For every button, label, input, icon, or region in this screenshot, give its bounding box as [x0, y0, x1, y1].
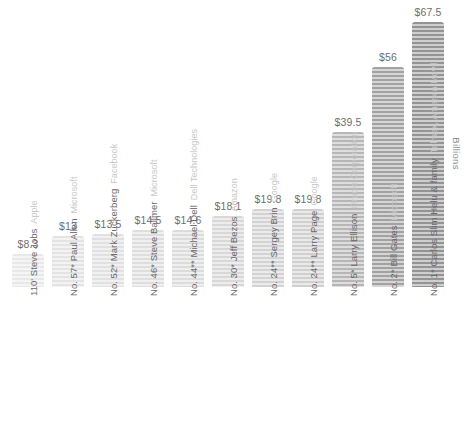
bar-category-label: No. 52* Mark ZuckerbergFacebook: [108, 144, 119, 296]
bar-value-label: $39.5: [335, 116, 362, 128]
bar-group: $14.6No. 44** Michael DellDell Technolog…: [168, 0, 208, 438]
bar-category-label: No. 1* Carlos Slim Helu & familyTelmex, …: [428, 63, 439, 296]
category-name: No. 1* Carlos Slim Helu & family: [428, 158, 439, 296]
category-name: No. 30* Jeff Bezos: [228, 217, 239, 296]
bar-category-label: 110' Steve JobsApple: [28, 200, 39, 296]
category-name: No. 52* Mark Zuckerberg: [108, 189, 119, 296]
bar-group: $19.8No. 24** Sergey BrinGoogle: [248, 0, 288, 438]
category-company: Apple: [29, 200, 39, 223]
category-name: No. 57* Paul Allen: [68, 219, 79, 296]
bar-category-label: No. 24** Sergey BrinGoogle: [268, 173, 279, 296]
bar-category-label: No. 2* Bill GatesMicrosoft: [388, 183, 399, 296]
axis-unit-label: Billions: [450, 137, 461, 170]
bar-category-label: No. 24** Larry PageGoogle: [308, 176, 319, 296]
category-company: Microsoft: [149, 160, 159, 197]
category-company: Telmex, America Movil: [429, 63, 439, 154]
bar-chart: $8.3110' Steve JobsApple$13No. 57* Paul …: [0, 0, 474, 438]
bar-category-label: No. 30* Jeff BezosAmazon: [228, 178, 239, 296]
category-company: Microsoft: [389, 183, 399, 220]
bar-category-label: No. 5* Larry EllisonOracle Corporation: [348, 132, 359, 296]
bar-group: $13.5No. 52* Mark ZuckerbergFacebook: [88, 0, 128, 438]
bar-group: $56No. 2* Bill GatesMicrosoft: [368, 0, 408, 438]
category-name: No. 44** Michael Dell: [188, 205, 199, 296]
category-company: Amazon: [229, 178, 239, 211]
bar-group: $8.3110' Steve JobsApple: [8, 0, 48, 438]
bar-group: $19.8No. 24** Larry PageGoogle: [288, 0, 328, 438]
bar-value-label: $56: [379, 51, 397, 63]
bar-group: $67.5No. 1* Carlos Slim Helu & familyTel…: [408, 0, 448, 438]
category-company: Google: [269, 173, 279, 202]
category-name: No. 24** Sergey Brin: [268, 207, 279, 296]
category-name: 110' Steve Jobs: [28, 229, 39, 296]
plot-area: $8.3110' Steve JobsApple$13No. 57* Paul …: [8, 0, 448, 438]
bar-group: $14.5No. 46* Steve BallmerMicrosoft: [128, 0, 168, 438]
category-company: Dell Technologies: [189, 129, 199, 200]
category-name: No. 24** Larry Page: [308, 211, 319, 296]
bar-group: $39.5No. 5* Larry EllisonOracle Corporat…: [328, 0, 368, 438]
bar-category-label: No. 57* Paul AllenMicrosoft: [68, 177, 79, 296]
category-company: Oracle Corporation: [349, 132, 359, 209]
category-name: No. 5* Larry Ellison: [348, 214, 359, 296]
category-company: Google: [309, 176, 319, 205]
bar-value-label: $67.5: [415, 6, 442, 18]
bar-group: $18.1No. 30* Jeff BezosAmazon: [208, 0, 248, 438]
category-company: Microsoft: [69, 177, 79, 214]
bar-group: $13No. 57* Paul AllenMicrosoft: [48, 0, 88, 438]
bar-category-label: No. 46* Steve BallmerMicrosoft: [148, 160, 159, 296]
category-company: Facebook: [109, 144, 119, 184]
category-name: No. 46* Steve Ballmer: [148, 201, 159, 296]
bar-category-label: No. 44** Michael DellDell Technologies: [188, 129, 199, 296]
category-name: No. 2* Bill Gates: [388, 225, 399, 296]
